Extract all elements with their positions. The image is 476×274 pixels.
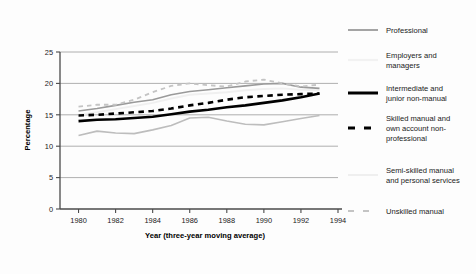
legend-label-4: own account non- [386, 124, 446, 133]
y-tick-label: 10 [45, 142, 53, 151]
x-tick-label: 1980 [70, 216, 86, 225]
legend-label-4: professional [386, 134, 427, 143]
axis-lines [60, 52, 342, 209]
data-series-group [79, 80, 320, 136]
x-tick-label: 1990 [256, 216, 272, 225]
line-chart: 0510152025 19801982198419861988199019921… [0, 0, 476, 274]
y-axis-ticks: 0510152025 [45, 48, 60, 214]
y-tick-label: 20 [45, 79, 53, 88]
y-tick-label: 5 [49, 173, 53, 182]
legend-label-4: Skilled manual and [386, 114, 450, 123]
legend-label-1: Professional [386, 26, 428, 35]
x-axis-ticks: 19801982198419861988199019921994 [70, 209, 346, 225]
legend-label-5: and personal services [386, 176, 460, 185]
y-tick-label: 0 [49, 205, 53, 214]
x-tick-label: 1994 [330, 216, 346, 225]
legend-label-6: Unskilled manual [386, 207, 444, 216]
chart-legend: ProfessionalEmployers andmanagersInterme… [348, 26, 460, 216]
legend-label-2: Employers and [386, 51, 437, 60]
legend-label-3: Intermediate and [386, 84, 443, 93]
y-axis-title: Percentage [23, 110, 32, 151]
y-tick-label: 25 [45, 48, 53, 57]
x-tick-label: 1984 [144, 216, 160, 225]
legend-label-3: junior non-manual [385, 94, 447, 103]
x-tick-label: 1988 [219, 216, 235, 225]
x-tick-label: 1982 [107, 216, 123, 225]
x-tick-label: 1992 [293, 216, 309, 225]
legend-label-5: Semi-skilled manual [386, 166, 454, 175]
legend-label-2: managers [386, 61, 420, 70]
x-tick-label: 1986 [182, 216, 198, 225]
chart-figure: 0510152025 19801982198419861988199019921… [0, 0, 476, 274]
y-tick-label: 15 [45, 111, 53, 120]
x-axis-title: Year (three-year moving average) [145, 231, 265, 240]
